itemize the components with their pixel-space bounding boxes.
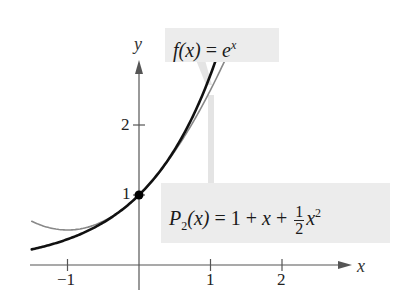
x-axis-arrow-icon [338, 261, 352, 269]
p-arg: (x) [187, 207, 209, 229]
f-arg: (x) [179, 39, 201, 61]
f-function-label: f(x) = ex [165, 28, 279, 62]
p-name: P [169, 207, 181, 229]
y-tick-label-1: 1 [122, 184, 131, 204]
p2-function-label: P2(x) = 1 + x + 12x2 [161, 183, 390, 243]
axes [30, 60, 352, 290]
p2-label-leader [208, 95, 214, 185]
point-0-1 [135, 191, 144, 200]
x-tick-label-neg1: −1 [57, 270, 75, 290]
f-exp: x [231, 38, 236, 52]
p-plus: + [271, 207, 292, 229]
p-eq: = 1 + [209, 207, 262, 229]
f-base: e [222, 39, 231, 61]
y-axis-label: y [134, 34, 142, 55]
fraction-one-half: 12 [294, 204, 304, 237]
x-tick-label-1: 1 [206, 270, 215, 290]
y-tick-label-2: 2 [121, 115, 130, 135]
f-label-leader [196, 60, 212, 85]
fraction-denominator: 2 [295, 221, 303, 237]
x-axis-label: x [357, 256, 365, 277]
p-exp: 2 [315, 206, 321, 220]
p-x: x [262, 207, 271, 229]
x-tick-label-2: 2 [277, 270, 286, 290]
fraction-numerator: 1 [295, 204, 303, 220]
f-eq: = [201, 39, 222, 61]
p-x2: x [306, 207, 315, 229]
y-axis-arrow-icon [135, 60, 143, 74]
